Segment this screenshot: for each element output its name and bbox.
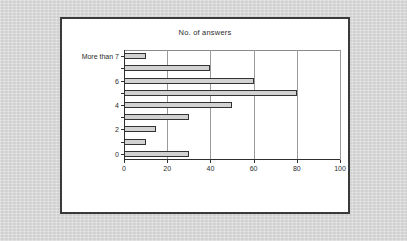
bar-5 (124, 90, 297, 96)
y-tick-4 (121, 105, 124, 106)
x-tick-20 (167, 160, 168, 163)
gridline-x-100 (340, 50, 341, 160)
x-tick-0 (124, 160, 125, 163)
x-axis-label-60: 60 (250, 165, 258, 172)
bar-4 (124, 102, 232, 108)
bar-0 (124, 151, 189, 157)
x-axis-label-0: 0 (122, 165, 126, 172)
x-tick-80 (297, 160, 298, 163)
chart-panel: No. of answers 0246More than 7 020406080… (60, 17, 350, 214)
y-tick-6 (121, 81, 124, 82)
plot-area: 0246More than 7 020406080100 (124, 50, 340, 160)
x-tick-100 (340, 160, 341, 163)
y-axis-label-more-than-7: More than 7 (82, 53, 119, 60)
y-tick-7 (121, 68, 124, 69)
bar-7 (124, 65, 210, 71)
y-tick-3 (121, 117, 124, 118)
y-axis (124, 50, 125, 160)
y-tick-0 (121, 154, 124, 155)
x-tick-40 (210, 160, 211, 163)
bar-row (124, 99, 340, 111)
bar-row (124, 111, 340, 123)
bar-more-than-7 (124, 53, 146, 59)
bar-row (124, 136, 340, 148)
y-axis-label-2: 2 (115, 126, 119, 133)
bar-row (124, 74, 340, 86)
bar-1 (124, 139, 146, 145)
x-axis (124, 159, 340, 160)
x-tick-60 (254, 160, 255, 163)
x-axis-label-100: 100 (334, 165, 346, 172)
y-tick-more-than-7 (121, 56, 124, 57)
bar-2 (124, 126, 156, 132)
y-axis-label-0: 0 (115, 150, 119, 157)
x-axis-label-20: 20 (163, 165, 171, 172)
chart-title: No. of answers (62, 28, 348, 37)
bar-row (124, 50, 340, 62)
bar-3 (124, 114, 189, 120)
y-tick-1 (121, 142, 124, 143)
y-tick-2 (121, 129, 124, 130)
y-axis-label-6: 6 (115, 77, 119, 84)
bar-row (124, 62, 340, 74)
y-axis-label-4: 4 (115, 102, 119, 109)
bar-6 (124, 78, 254, 84)
y-tick-5 (121, 93, 124, 94)
x-axis-label-80: 80 (293, 165, 301, 172)
bar-row (124, 123, 340, 135)
x-axis-label-40: 40 (206, 165, 214, 172)
bar-row (124, 87, 340, 99)
